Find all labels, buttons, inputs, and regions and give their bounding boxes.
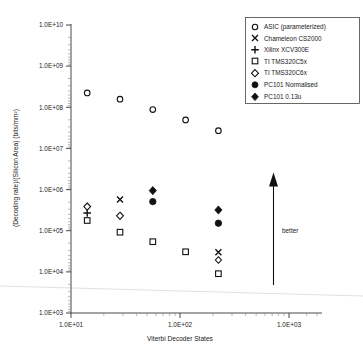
y-tick-label: 1.0E+09 [39, 62, 63, 69]
series-pc101-normalised [150, 198, 222, 226]
data-point [117, 212, 124, 219]
legend-label: TI TMS320C5x [264, 58, 308, 65]
y-axis-tick-labels: 1.0E+10 1.0E+09 1.0E+08 1.0E+07 1.0E+06 … [39, 21, 63, 316]
x-axis-tick-labels: 1.0E+01 1.0E+02 1.0E+03 [59, 321, 301, 328]
better-arrow-annotation: better [269, 173, 299, 286]
y-axis-title: (Decoding rate)/(Silicon Area) (bits/mm²… [12, 109, 20, 227]
scatter-plot: 1.0E+10 1.0E+09 1.0E+08 1.0E+07 1.0E+06 … [0, 0, 363, 353]
scan-artifact-line [0, 286, 363, 296]
x-axis-title: Viterbi Decoder States [147, 335, 214, 342]
solid-circle-icon [252, 82, 258, 88]
y-tick-label: 1.0E+06 [39, 186, 63, 193]
chart-legend: ASIC (parameterized) Chameleon CS2000 Xi… [246, 18, 360, 104]
data-point [84, 203, 91, 210]
x-tick-label: 1.0E+01 [59, 321, 83, 328]
y-tick-label: 1.0E+05 [39, 227, 63, 234]
legend-item-asic-parameterized[interactable]: ASIC (parameterized) [252, 23, 326, 31]
y-tick-label: 1.0E+03 [39, 309, 63, 316]
series-ti-tms320c5x [84, 218, 221, 277]
chart-container: 1.0E+10 1.0E+09 1.0E+08 1.0E+07 1.0E+06 … [0, 0, 363, 353]
legend-label: ASIC (parameterized) [264, 23, 326, 31]
data-point [150, 107, 156, 113]
series-asic-parameterized [84, 90, 221, 133]
y-tick-label: 1.0E+04 [39, 268, 63, 275]
data-point [216, 271, 222, 277]
legend-label: Chameleon CS2000 [264, 35, 322, 42]
arrow-head-icon [269, 173, 278, 187]
y-tick-label: 1.0E+10 [39, 21, 63, 28]
data-point [215, 249, 221, 255]
series-pc101-013u [149, 187, 222, 215]
data-point [117, 197, 123, 203]
legend-label: Xilinx XCV300E [264, 46, 309, 53]
legend-label: PC101 Normalised [264, 81, 318, 88]
x-axis-ticks [71, 313, 317, 318]
x-tick-label: 1.0E+02 [168, 321, 192, 328]
data-point [84, 90, 90, 96]
legend-label: TI TMS320C6x [264, 69, 308, 76]
data-point [216, 128, 222, 134]
x-tick-label: 1.0E+03 [277, 321, 301, 328]
series-chameleon-cs2000 [117, 197, 221, 256]
data-point [117, 96, 123, 102]
y-axis-ticks [66, 25, 71, 313]
y-tick-label: 1.0E+08 [39, 104, 63, 111]
legend-label: PC101 0.13u [264, 93, 302, 100]
data-point [183, 249, 189, 255]
data-point [84, 218, 90, 224]
data-point [150, 239, 156, 245]
data-point [215, 220, 221, 226]
better-label: better [282, 227, 299, 234]
y-tick-label: 1.0E+07 [39, 145, 63, 152]
series-ti-tms320c6x [84, 203, 222, 263]
data-point [117, 229, 123, 235]
data-point [183, 117, 189, 123]
data-point [215, 206, 222, 214]
data-point [215, 257, 221, 264]
data-point [149, 187, 156, 195]
data-point [150, 198, 156, 204]
